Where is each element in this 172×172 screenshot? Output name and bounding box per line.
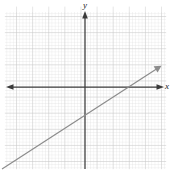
coordinate-plane-figure: y x: [0, 0, 172, 172]
y-axis-label: y: [83, 1, 87, 10]
x-axis-label: x: [165, 82, 169, 91]
graph-canvas: [0, 0, 172, 172]
